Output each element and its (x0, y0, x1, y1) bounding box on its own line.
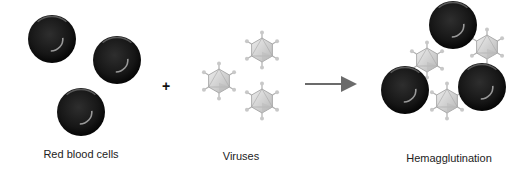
label-red-blood-cells: Red blood cells (43, 148, 118, 160)
plus-operator: + (162, 78, 170, 94)
red-blood-cell-icon (458, 63, 506, 111)
label-hemagglutination: Hemagglutination (406, 152, 492, 164)
red-blood-cell-icon (57, 88, 105, 136)
virus-icon (245, 82, 279, 121)
red-blood-cell-icon (28, 15, 76, 63)
virus-icon (202, 62, 236, 101)
red-blood-cells-group (28, 15, 141, 136)
red-blood-cell-icon (381, 66, 429, 114)
label-viruses: Viruses (223, 150, 259, 162)
diagram-canvas (0, 0, 525, 171)
viruses-group (202, 31, 279, 121)
red-blood-cell-icon (93, 36, 141, 84)
hemagglutination-diagram: + Red blood cells Viruses Hemagglutinati… (0, 0, 525, 171)
red-blood-cell-icon (429, 1, 477, 49)
virus-icon (245, 31, 279, 70)
